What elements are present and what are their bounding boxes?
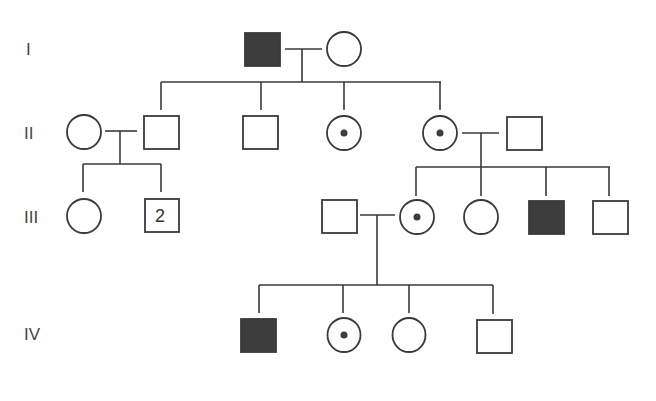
generation-label-ii: II [24,124,33,143]
individual-iii-6-affected-male-square [529,201,564,234]
generation-label-i: I [26,40,31,59]
individual-iv-4-male-square [477,320,512,353]
mating-line-iii [259,215,493,314]
sibling-count-label: 2 [155,206,165,226]
carrier-dot-icon [414,214,421,221]
individual-iv-3-female-circle [393,318,426,352]
individual-iii-1-female-circle [67,199,101,233]
pedigree-diagram: I II III IV [0,0,656,401]
individual-i-2-female-circle [327,32,361,66]
individual-iv-1-affected-male-square [241,319,276,352]
individual-iii-2-male-count-square: 2 [145,199,179,232]
individual-ii-6-male-square [507,117,542,150]
individual-iii-5-female-circle [464,200,498,234]
mating-line-i [161,49,441,110]
individual-iii-7-male-square [593,201,628,234]
individual-ii-5-carrier-female [423,116,457,150]
generation-label-iii: III [24,208,38,227]
generation-label-iv: IV [24,325,41,344]
individual-ii-4-carrier-female [327,116,361,150]
carrier-dot-icon [437,130,444,137]
individual-i-1-affected-male-square [245,33,280,66]
carrier-dot-icon [341,130,348,137]
individual-ii-1-female-circle [67,115,101,149]
carrier-dot-icon [341,332,348,339]
individual-iv-2-carrier-female [328,318,361,352]
individual-iii-4-carrier-female [400,200,434,234]
individual-ii-2-male-square [144,116,179,149]
individual-ii-3-male-square [243,116,278,149]
individual-iii-3-male-square [322,200,357,233]
